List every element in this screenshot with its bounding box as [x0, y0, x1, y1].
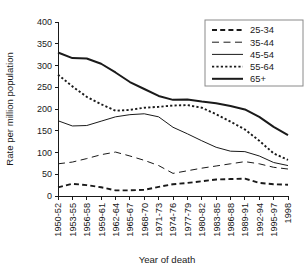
x-tick-label: 1962-64	[111, 203, 121, 237]
y-tick-label: 50	[42, 169, 52, 179]
x-tick-label: 1956-58	[82, 203, 92, 237]
legend-label: 25-34	[250, 24, 274, 35]
y-axis-ticks: 050100150200250300350400	[37, 17, 58, 201]
x-axis-title: Year of death	[139, 254, 196, 265]
x-tick-label: 1983-85	[212, 203, 222, 237]
x-tick-label: 1950-52	[53, 203, 63, 237]
y-tick-label: 0	[47, 191, 52, 201]
legend-label: 55-64	[250, 61, 274, 72]
x-tick-label: 1998	[283, 203, 293, 223]
series-line-55-64	[58, 75, 288, 160]
series-line-35-44	[58, 152, 288, 173]
x-axis-ticks: 1950-521953-551956-581959-611962-641965-…	[53, 196, 293, 237]
y-tick-label: 200	[37, 104, 52, 114]
y-tick-label: 100	[37, 148, 52, 158]
line-chart: 0501001502002503003504001950-521953-5519…	[0, 0, 308, 270]
y-tick-label: 300	[37, 61, 52, 71]
x-tick-label: 1980-82	[197, 203, 207, 237]
x-tick-label: 1974-76	[168, 203, 178, 237]
x-tick-label: 1989-91	[240, 203, 250, 237]
legend-label: 65+	[250, 73, 266, 84]
x-tick-label: 1965-67	[125, 203, 135, 237]
chart-figure: 0501001502002503003504001950-521953-5519…	[0, 0, 308, 270]
y-tick-label: 400	[37, 17, 52, 27]
x-tick-label: 1959-61	[97, 203, 107, 237]
y-tick-label: 150	[37, 126, 52, 136]
x-tick-label: 1992-94	[255, 203, 265, 237]
x-tick-label: 1968-70	[140, 203, 150, 237]
x-tick-label: 1971-73	[154, 203, 164, 237]
x-tick-label: 1953-55	[68, 203, 78, 237]
y-tick-label: 250	[37, 82, 52, 92]
y-axis-title: Rate per million population	[4, 52, 15, 166]
x-tick-label: 1995-97	[269, 203, 279, 237]
legend-label: 45-54	[250, 49, 274, 60]
x-tick-label: 1977-79	[183, 203, 193, 237]
legend-label: 35-44	[250, 37, 274, 48]
y-tick-label: 350	[37, 39, 52, 49]
legend: 25-3435-4445-5455-6465+	[205, 20, 303, 86]
series-line-45-54	[58, 114, 288, 166]
x-tick-label: 1986-88	[226, 203, 236, 237]
series-line-25-34	[58, 179, 288, 191]
